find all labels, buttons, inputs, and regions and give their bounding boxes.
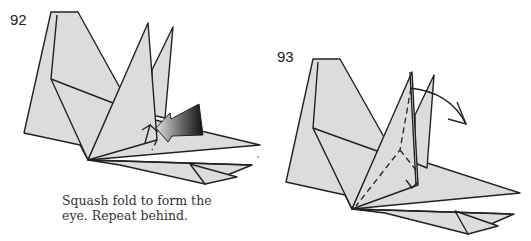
step-92-caption: Squash fold to form the eye. Repeat behi… — [62, 193, 212, 223]
step-93-model — [286, 59, 520, 234]
step-92-model — [24, 12, 260, 184]
step-number-92: 92 — [10, 11, 27, 28]
back-point — [152, 27, 173, 118]
caption-line-1: Squash fold to form the — [62, 193, 212, 208]
step-number-93: 93 — [277, 48, 294, 65]
caption-line-2: eye. Repeat behind. — [62, 208, 212, 223]
